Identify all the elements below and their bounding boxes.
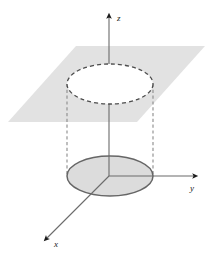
x-axis-label: x (53, 239, 58, 249)
z-axis-label: z (116, 13, 121, 23)
cylinder-top-rim (67, 64, 153, 104)
y-axis-label: y (189, 183, 194, 193)
cylinder-plane-diagram: z y x (0, 0, 213, 255)
figure-canvas: z y x (0, 0, 213, 255)
